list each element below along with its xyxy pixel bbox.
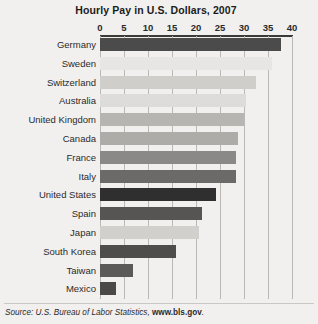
category-label: Italy [0,168,96,187]
bar-row [100,36,292,55]
bar [100,245,176,258]
bar-row [100,243,292,262]
x-tick-label: 5 [121,22,126,33]
category-label: Germany [0,36,96,55]
x-tick-label: 0 [97,22,102,33]
bar-row [100,280,292,299]
bar-row [100,224,292,243]
x-tick-label: 10 [143,22,154,33]
bar [100,113,244,126]
bar [100,57,272,70]
bar [100,282,116,295]
bar [100,264,133,277]
source-prefix: Source: U.S. Bureau of Labor Statistics, [5,308,152,317]
bar-row [100,262,292,281]
x-tick-label: 25 [215,22,226,33]
bar-row [100,130,292,149]
bar-row [100,111,292,130]
source-suffix: . [202,308,204,317]
source-url: www.bls.gov [152,308,202,317]
bar [100,76,256,89]
category-label: Japan [0,224,96,243]
category-label: Australia [0,92,96,111]
bar [100,94,246,107]
category-label: Canada [0,130,96,149]
bar-row [100,74,292,93]
source-note: Source: U.S. Bureau of Labor Statistics,… [5,308,204,317]
category-label: France [0,149,96,168]
chart-card: Hourly Pay in U.S. Dollars, 2007 0510152… [0,0,318,324]
bar [100,38,281,51]
category-label: United States [0,186,96,205]
bar-row [100,149,292,168]
bar [100,170,236,183]
bar [100,226,199,239]
gridline [292,36,293,299]
bar-row [100,168,292,187]
category-label: Mexico [0,280,96,299]
bar-row [100,92,292,111]
category-label: South Korea [0,243,96,262]
category-label: Switzerland [0,74,96,93]
category-label: Spain [0,205,96,224]
category-label: Taiwan [0,262,96,281]
category-axis-labels: GermanySwedenSwitzerlandAustraliaUnited … [0,36,96,299]
category-label: United Kingdom [0,111,96,130]
x-tick-label: 20 [191,22,202,33]
bar-row [100,205,292,224]
bar [100,188,216,201]
bar [100,151,236,164]
chart-title: Hourly Pay in U.S. Dollars, 2007 [0,4,312,16]
bar-row [100,186,292,205]
x-tick-label: 35 [263,22,274,33]
x-tick-label: 40 [287,22,298,33]
footer-divider [4,303,314,304]
bar [100,207,202,220]
x-tick-label: 30 [239,22,250,33]
x-axis-tick-labels: 0510152025303540 [0,22,318,34]
category-label: Sweden [0,55,96,74]
plot-area [100,36,292,299]
bar [100,132,238,145]
bar-row [100,55,292,74]
x-tick-label: 15 [167,22,178,33]
